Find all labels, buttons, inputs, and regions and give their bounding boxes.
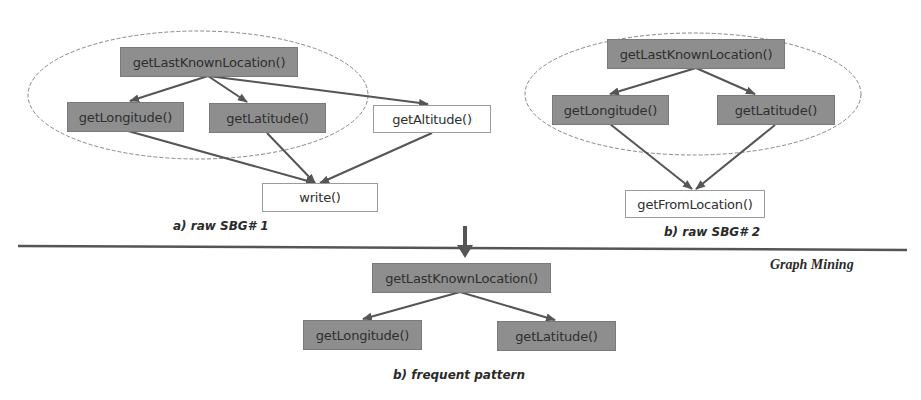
mining-arrow: [457, 226, 473, 258]
node-b-getlatitude: getLatitude(): [717, 95, 835, 125]
node-a-getlastknownlocation: getLastKnownLocation(): [120, 47, 298, 77]
node-a-getaltitude: getAltitude(): [373, 105, 491, 133]
node-b-getlastknownlocation: getLastKnownLocation(): [607, 39, 785, 69]
node-pattern-getlongitude: getLongitude(): [303, 320, 422, 350]
node-pattern-getlastknownlocation: getLastKnownLocation(): [372, 263, 551, 293]
pattern-edges: [363, 292, 555, 320]
caption-graph-a: a) raw SBG# 1: [173, 219, 269, 233]
caption-frequent-pattern: b) frequent pattern: [393, 368, 525, 382]
node-a-getlongitude: getLongitude(): [67, 102, 184, 132]
node-b-getfromlocation: getFromLocation(): [625, 190, 765, 218]
section-label-graph-mining: Graph Mining: [770, 257, 854, 273]
caption-graph-b: b) raw SBG# 2: [664, 225, 760, 239]
node-pattern-getlatitude: getLatitude(): [497, 321, 616, 351]
node-b-getlongitude: getLongitude(): [552, 95, 669, 125]
node-a-getlatitude: getLatitude(): [209, 103, 326, 133]
node-a-write: write(): [262, 183, 378, 212]
graph-b-edges: [610, 68, 775, 189]
